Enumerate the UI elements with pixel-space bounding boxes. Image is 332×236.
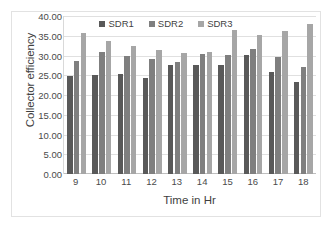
bar-sdr1-15[interactable] bbox=[218, 65, 224, 174]
y-tick-label: 10.00 bbox=[18, 129, 62, 140]
y-axis-tick-labels: 0.005.0010.0015.0020.0025.0030.0035.0040… bbox=[18, 16, 62, 174]
bar-sdr3-17[interactable] bbox=[282, 31, 288, 174]
bar-sdr2-12[interactable] bbox=[149, 59, 155, 174]
bars-layer bbox=[64, 16, 316, 174]
chart-container: Collector efficiency 0.005.0010.0015.002… bbox=[11, 11, 321, 217]
chart-legend: SDR1SDR2SDR3 bbox=[12, 18, 320, 29]
y-tick-label: 25.00 bbox=[18, 70, 62, 81]
legend-swatch-icon bbox=[99, 21, 105, 27]
legend-label: SDR1 bbox=[108, 18, 133, 29]
x-tick-label: 17 bbox=[265, 176, 290, 187]
y-tick-label: 20.00 bbox=[18, 90, 62, 101]
bar-sdr3-14[interactable] bbox=[207, 52, 213, 174]
bar-sdr1-11[interactable] bbox=[118, 74, 124, 174]
x-tick-label: 11 bbox=[114, 176, 139, 187]
bar-group bbox=[266, 16, 291, 174]
legend-item-sdr2[interactable]: SDR2 bbox=[148, 18, 184, 29]
bar-sdr3-15[interactable] bbox=[232, 30, 238, 174]
bar-group bbox=[89, 16, 114, 174]
x-tick-label: 14 bbox=[189, 176, 214, 187]
bar-sdr1-18[interactable] bbox=[294, 82, 300, 174]
bar-sdr2-18[interactable] bbox=[301, 67, 307, 174]
bar-sdr2-11[interactable] bbox=[124, 56, 130, 175]
y-tick-label: 35.00 bbox=[18, 30, 62, 41]
bar-sdr1-10[interactable] bbox=[92, 75, 98, 174]
bar-group bbox=[291, 16, 316, 174]
y-tick-label: 5.00 bbox=[18, 149, 62, 160]
x-tick-label: 9 bbox=[63, 176, 88, 187]
bar-sdr2-10[interactable] bbox=[99, 52, 105, 174]
bar-sdr2-13[interactable] bbox=[175, 62, 181, 174]
legend-item-sdr1[interactable]: SDR1 bbox=[98, 18, 134, 29]
bar-sdr3-12[interactable] bbox=[156, 50, 162, 174]
x-axis-tick-labels: 9101112131415161718 bbox=[63, 176, 316, 187]
y-tick-label: 30.00 bbox=[18, 50, 62, 61]
bar-sdr3-11[interactable] bbox=[131, 46, 137, 174]
legend-swatch-icon bbox=[198, 21, 204, 27]
bar-group bbox=[215, 16, 240, 174]
y-tick-label: 0.00 bbox=[18, 169, 62, 180]
x-tick-label: 18 bbox=[291, 176, 316, 187]
bar-sdr3-18[interactable] bbox=[307, 24, 313, 174]
bar-group bbox=[240, 16, 265, 174]
bar-sdr1-12[interactable] bbox=[143, 78, 149, 174]
bar-sdr2-17[interactable] bbox=[275, 57, 281, 174]
bar-sdr3-13[interactable] bbox=[181, 53, 187, 174]
bar-group bbox=[140, 16, 165, 174]
bar-sdr1-14[interactable] bbox=[193, 65, 199, 174]
x-tick-label: 16 bbox=[240, 176, 265, 187]
y-tick-label: 15.00 bbox=[18, 109, 62, 120]
bar-sdr2-14[interactable] bbox=[200, 54, 206, 174]
bar-sdr1-13[interactable] bbox=[168, 65, 174, 174]
bar-sdr2-16[interactable] bbox=[250, 49, 256, 174]
bar-group bbox=[190, 16, 215, 174]
legend-label: SDR2 bbox=[158, 18, 183, 29]
x-tick-label: 15 bbox=[215, 176, 240, 187]
legend-item-sdr3[interactable]: SDR3 bbox=[197, 18, 233, 29]
x-tick-label: 10 bbox=[88, 176, 113, 187]
bar-sdr2-9[interactable] bbox=[74, 61, 80, 174]
legend-label: SDR3 bbox=[207, 18, 232, 29]
x-tick-label: 13 bbox=[164, 176, 189, 187]
bar-group bbox=[165, 16, 190, 174]
x-tick-label: 12 bbox=[139, 176, 164, 187]
bar-group bbox=[114, 16, 139, 174]
bar-sdr3-9[interactable] bbox=[81, 33, 87, 174]
bar-sdr2-15[interactable] bbox=[225, 55, 231, 174]
bar-group bbox=[64, 16, 89, 174]
bar-sdr1-9[interactable] bbox=[67, 76, 73, 174]
bar-sdr1-17[interactable] bbox=[269, 72, 275, 174]
bar-sdr3-16[interactable] bbox=[257, 35, 263, 174]
x-axis-title: Time in Hr bbox=[63, 194, 316, 206]
plot-area bbox=[63, 16, 316, 174]
bar-sdr3-10[interactable] bbox=[106, 41, 112, 174]
bar-sdr1-16[interactable] bbox=[244, 55, 250, 174]
legend-swatch-icon bbox=[149, 21, 155, 27]
